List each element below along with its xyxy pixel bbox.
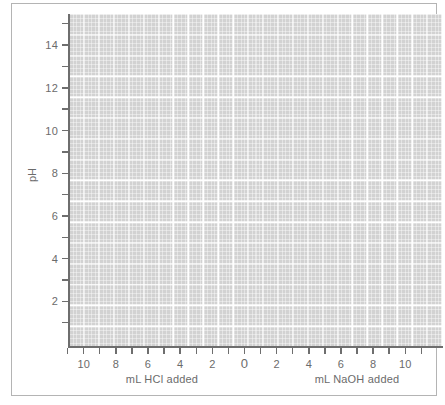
- y-tick-minor: [62, 322, 68, 323]
- y-tick-label-text: 2: [32, 295, 58, 307]
- x-tick-label-text: 8: [370, 358, 376, 370]
- x-tick-minor: [421, 348, 422, 354]
- y-tick-minor: [62, 23, 68, 24]
- y-tick-label: 12: [32, 82, 58, 94]
- y-axis-title: pH: [26, 164, 38, 186]
- x-tick-label: 4: [294, 354, 324, 372]
- x-axis-title-hcl: mL HCl added: [92, 373, 232, 385]
- x-tick-label: 8: [358, 354, 388, 372]
- x-tick-label: 6: [133, 354, 163, 372]
- y-axis-spine: [68, 14, 70, 348]
- x-tick-label: 2: [262, 354, 292, 372]
- y-tick-label-text: 6: [32, 210, 58, 222]
- y-tick-label-text: 4: [32, 253, 58, 265]
- x-tick-label: 8: [101, 354, 131, 372]
- y-tick-minor: [62, 194, 68, 195]
- y-tick-minor: [62, 151, 68, 152]
- y-tick-minor: [62, 279, 68, 280]
- x-tick-label: 6: [326, 354, 356, 372]
- x-axis-title-naoh: mL NaOH added: [287, 373, 427, 385]
- y-tick-label-text: 14: [32, 39, 58, 51]
- y-tick-major: [62, 87, 68, 88]
- x-tick-label-text: 6: [338, 358, 344, 370]
- x-tick-label-text: 6: [145, 358, 151, 370]
- x-tick-label-text: 4: [177, 358, 183, 370]
- y-tick-major: [62, 44, 68, 45]
- x-tick-label: 10: [390, 354, 420, 372]
- x-tick-label: 0: [230, 354, 260, 372]
- y-tick-major: [62, 173, 68, 174]
- x-tick-label: 10: [69, 354, 99, 372]
- y-tick-major: [62, 301, 68, 302]
- x-tick-label-text: 4: [306, 358, 312, 370]
- y-tick-minor: [62, 108, 68, 109]
- y-tick-label: 14: [32, 39, 58, 51]
- minor-gridlines: [69, 14, 442, 347]
- y-tick-major: [62, 215, 68, 216]
- y-tick-label: 10: [32, 125, 58, 137]
- x-tick-label: 2: [197, 354, 227, 372]
- y-tick-major: [62, 258, 68, 259]
- x-tick-label-text: 10: [399, 358, 412, 370]
- y-tick-minor: [62, 66, 68, 67]
- y-tick-label: 6: [32, 210, 58, 222]
- x-tick-label-text: 2: [273, 358, 279, 370]
- y-tick-label: 2: [32, 295, 58, 307]
- y-tick-label-text: 10: [32, 125, 58, 137]
- major-gridlines: [69, 14, 442, 347]
- x-tick-label-text: 0: [241, 356, 248, 371]
- x-tick-label-text: 10: [77, 358, 90, 370]
- y-tick-label-text: 12: [32, 82, 58, 94]
- y-tick-label: 4: [32, 253, 58, 265]
- x-axis-spine: [68, 346, 443, 348]
- x-tick-label: 4: [165, 354, 195, 372]
- y-tick-minor: [62, 237, 68, 238]
- x-tick-label-text: 2: [209, 358, 215, 370]
- y-tick-major: [62, 130, 68, 131]
- x-tick-label-text: 8: [113, 358, 119, 370]
- plot-area: [69, 14, 442, 347]
- figure-frame: 2468101214 1086420246810 pH mL HCl added…: [11, 3, 437, 396]
